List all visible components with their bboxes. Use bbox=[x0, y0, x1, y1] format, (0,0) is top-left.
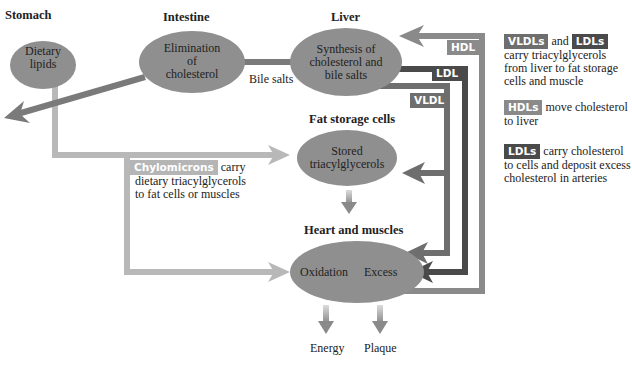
synthesis-label: Synthesis ofcholesterol andbile salts bbox=[296, 43, 396, 82]
vldl-badge: VLDL bbox=[410, 90, 448, 108]
chylomicrons-badge: Chylomicrons bbox=[130, 160, 218, 175]
legend-ldl: LDLs carry cholesterol to cells and depo… bbox=[504, 144, 631, 185]
lipoprotein-transport-diagram: Stomach Intestine Liver Fat storage cell… bbox=[0, 0, 632, 368]
energy-arrow bbox=[318, 321, 334, 334]
heading-intestine: Intestine bbox=[163, 10, 210, 25]
stored-label: Storedtriacylglycerols bbox=[300, 145, 394, 171]
legend-hdl: HDLs move cholesterol to liver bbox=[504, 100, 628, 128]
plaque-arrow bbox=[372, 321, 388, 334]
bile-salts-label: Bile salts bbox=[249, 73, 293, 86]
elimination-label: Eliminationofcholesterol bbox=[150, 42, 234, 81]
hdl-badge: HDL bbox=[447, 37, 479, 55]
legend-vldl-ldl: VLDLs and LDLs carry triacylglycerols fr… bbox=[504, 34, 618, 88]
heading-fat-storage: Fat storage cells bbox=[309, 112, 395, 127]
heading-stomach: Stomach bbox=[5, 8, 52, 23]
plaque-label: Plaque bbox=[364, 342, 397, 355]
energy-label: Energy bbox=[310, 342, 344, 355]
stored-to-heart-arrow bbox=[341, 202, 357, 214]
excess-label: Excess bbox=[364, 266, 397, 279]
dietary-lipids-label: Dietarylipids bbox=[18, 45, 68, 71]
chylomicron-caption: Chylomicrons carry dietary triacylglycer… bbox=[130, 160, 246, 201]
heading-liver: Liver bbox=[331, 10, 360, 25]
ldl-badge: LDL bbox=[432, 63, 462, 81]
oxidation-label: Oxidation bbox=[300, 266, 348, 279]
heading-heart-muscles: Heart and muscles bbox=[304, 223, 403, 238]
